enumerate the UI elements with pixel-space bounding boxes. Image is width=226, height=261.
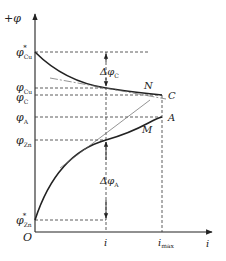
point-n-label: N xyxy=(143,80,154,91)
cathode-curve xyxy=(35,52,162,95)
x-tick-i: i xyxy=(104,237,107,248)
polarization-diagram: +φ φCu* φCu φC φA φZn φZn* ΔφC ΔφA N C M… xyxy=(0,0,226,261)
point-a-label: A xyxy=(167,112,175,123)
level-lines xyxy=(35,52,162,220)
point-m-label: M xyxy=(141,124,153,135)
y-axis-label: +φ xyxy=(4,12,21,25)
vertical-lines xyxy=(106,52,162,232)
point-c-label: C xyxy=(168,90,176,101)
svg-text:φZn: φZn xyxy=(16,134,32,148)
origin-label: O xyxy=(23,231,32,244)
delta-c-label: ΔφC xyxy=(99,66,119,79)
svg-text:φZn*: φZn* xyxy=(16,212,32,228)
level-labels: φCu* φCu φC φA φZn φZn* xyxy=(16,44,32,228)
anode-tangent xyxy=(60,100,150,168)
svg-text:φA: φA xyxy=(16,111,29,125)
x-axis-label: i xyxy=(206,238,209,249)
x-tick-imax: imax xyxy=(158,237,174,249)
svg-text:φCu*: φCu* xyxy=(16,44,32,60)
delta-a-label: ΔφA xyxy=(99,175,119,188)
